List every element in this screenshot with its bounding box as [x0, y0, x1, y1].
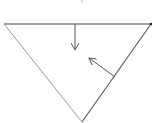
triangle-diagram: [0, 0, 152, 123]
triangle-left-edge: [4, 24, 82, 122]
inward-normal-arrow: [89, 58, 115, 77]
triangle-right-edge: [82, 24, 151, 122]
